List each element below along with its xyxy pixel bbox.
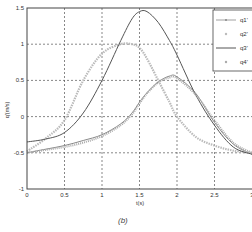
x-tick-label: 3 (250, 192, 252, 198)
y-tick-labels: -1-0.500.511.5 (14, 5, 25, 192)
y-tick-label: -1 (19, 186, 25, 192)
y-tick-label: -0.5 (14, 150, 25, 156)
legend-label: q1' (240, 17, 248, 23)
x-tick-label: 0.5 (60, 192, 69, 198)
figure-caption: (b) (118, 216, 128, 225)
y-axis-label: q'(m/s) (4, 102, 10, 119)
legend-marker (225, 19, 227, 21)
chart: -1-0.500.511.5 00.511.522.53 q'(m/s) t(s… (0, 0, 252, 232)
legend-marker (225, 61, 227, 63)
legend-label: q4' (240, 59, 248, 65)
x-tick-label: 0 (25, 192, 29, 198)
x-tick-label: 2.5 (210, 192, 219, 198)
legend: q1'q2'q3'q4' (213, 10, 252, 71)
y-tick-label: 0 (21, 114, 25, 120)
x-tick-label: 2 (175, 192, 179, 198)
x-tick-label: 1.5 (135, 192, 144, 198)
y-tick-label: 1.5 (16, 5, 25, 11)
x-tick-label: 1 (100, 192, 104, 198)
series-q1 (27, 75, 252, 154)
x-tick-labels: 00.511.522.53 (25, 192, 252, 198)
legend-label: q3' (240, 45, 248, 51)
y-tick-label: 0.5 (16, 77, 25, 83)
y-tick-label: 1 (21, 41, 25, 47)
x-axis-label: t(s) (136, 200, 144, 206)
legend-label: q2' (240, 31, 248, 37)
legend-marker (225, 33, 227, 35)
